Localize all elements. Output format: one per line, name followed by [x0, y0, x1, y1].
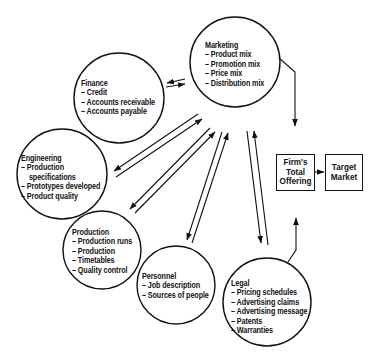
personnel-label: Personnel – Job description – Sources of…: [142, 272, 209, 300]
production-item: – Quality control: [72, 266, 132, 275]
arrow-production-to-marketing: [135, 132, 215, 213]
arrow-marketing-to-legal: [247, 131, 261, 243]
target-market-box: Target Market: [325, 154, 363, 191]
arrow-engineering-to-marketing: [116, 119, 202, 177]
personnel-item: – Sources of people: [142, 291, 209, 300]
arrow-legal-to-marketing: [254, 131, 268, 245]
legal-item: – Patents: [231, 317, 307, 326]
personnel-item: – Job description: [142, 281, 209, 290]
finance-item: – Accounts receivable: [81, 98, 155, 107]
personnel-title: Personnel: [142, 272, 209, 281]
arrow-legal-to-offering: [288, 218, 296, 262]
legal-item: – Advertising claims: [231, 298, 307, 307]
engineering-item: – Product quality: [21, 192, 100, 201]
production-label: Production – Production runs – Productio…: [72, 228, 132, 275]
arrow-marketing-to-offering: [279, 58, 295, 126]
arrow-marketing-to-finance: [167, 79, 185, 83]
marketing-item: – Promotion mix: [205, 60, 264, 69]
firms-total-offering-box: Firm's Total Offering: [276, 154, 315, 191]
engineering-item: – Prototypes developed: [21, 182, 100, 191]
legal-item: – Advertising message: [231, 307, 307, 316]
production-item: – Production runs: [72, 237, 132, 246]
marketing-item: – Distribution mix: [205, 79, 264, 88]
finance-item: – Credit: [81, 88, 155, 97]
engineering-title: Engineering: [21, 154, 100, 163]
finance-label: Finance – Credit – Accounts receivable –…: [81, 79, 155, 117]
production-item: – Production: [72, 247, 132, 256]
marketing-item: – Price mix: [205, 69, 264, 78]
finance-title: Finance: [81, 79, 155, 88]
market-line: Market: [331, 173, 357, 183]
arrow-finance-to-marketing: [166, 84, 185, 87]
marketing-title: Marketing: [205, 41, 264, 50]
production-item: – Timetables: [72, 256, 132, 265]
engineering-item: specifications: [21, 173, 100, 182]
legal-title: Legal: [231, 279, 307, 288]
arrow-marketing-to-personnel: [187, 132, 222, 240]
production-title: Production: [72, 228, 132, 237]
engineering-label: Engineering – Production specifications …: [21, 154, 100, 201]
engineering-item: – Production: [21, 163, 100, 172]
legal-item: – Pricing schedules: [231, 288, 307, 297]
legal-item: – Warranties: [231, 326, 307, 335]
offering-line: Offering: [280, 177, 312, 187]
offering-line: Firm's: [280, 158, 312, 168]
offering-line: Total: [280, 168, 312, 178]
finance-item: – Accounts payable: [81, 107, 155, 116]
marketing-item: – Product mix: [205, 50, 264, 59]
market-line: Target: [331, 163, 357, 173]
legal-label: Legal – Pricing schedules – Advertising …: [231, 279, 307, 335]
marketing-label: Marketing – Product mix – Promotion mix …: [205, 41, 264, 88]
